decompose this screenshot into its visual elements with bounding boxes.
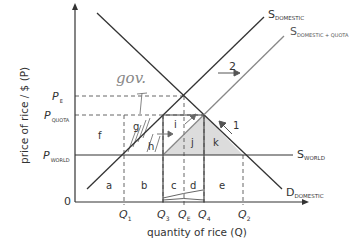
s-domestic-line xyxy=(87,17,264,189)
area-b: b xyxy=(141,180,147,191)
arrow-1-label: 1 xyxy=(233,120,239,131)
handwritten-bracket-2 xyxy=(163,199,204,201)
area-f: f xyxy=(98,130,102,141)
handwritten-bracket xyxy=(163,190,203,198)
label-q4: Q4 xyxy=(198,208,211,222)
area-e: e xyxy=(219,180,225,191)
label-s-domestic-quota: SDOMESTIC + QUOTA xyxy=(290,25,349,38)
label-qe: QE xyxy=(178,208,191,222)
quota-diagram: 2 1 gov. a b c d e f g h i j k PE PQUOTA… xyxy=(0,0,360,246)
label-s-world: SWORLD xyxy=(297,148,325,161)
x-axis-arrow-icon xyxy=(302,199,309,205)
arrow-h xyxy=(157,131,173,137)
arrow-1 xyxy=(219,121,232,134)
label-p-e: PE xyxy=(52,90,63,104)
label-s-domestic: SDOMESTIC xyxy=(268,8,304,21)
y-axis-arrow-icon xyxy=(72,3,78,10)
area-h: h xyxy=(148,141,154,152)
quantity-labels: Q1 Q3 QE Q4 Q2 xyxy=(119,208,251,222)
label-q3: Q3 xyxy=(157,208,170,222)
area-g: g xyxy=(133,121,139,132)
label-q2: Q2 xyxy=(238,208,251,222)
area-i: i xyxy=(174,119,177,130)
demand-line xyxy=(97,13,282,189)
arrow-2-label: 2 xyxy=(229,60,236,73)
label-p-world: PWORLD xyxy=(43,149,70,163)
area-k: k xyxy=(213,137,219,148)
x-axis-title: quantity of rice (Q) xyxy=(147,226,247,238)
label-d-domestic: DDOMESTIC xyxy=(286,186,324,199)
handwritten-gov: gov. xyxy=(116,69,146,87)
area-j: j xyxy=(190,137,194,148)
area-d: d xyxy=(190,180,196,191)
origin-label: 0 xyxy=(64,195,71,208)
label-p-quota: PQUOTA xyxy=(44,109,70,123)
y-axis-title: price of rice / $ (P) xyxy=(18,67,30,164)
label-q1: Q1 xyxy=(119,208,132,222)
area-a: a xyxy=(106,180,112,191)
area-c: c xyxy=(171,180,177,191)
